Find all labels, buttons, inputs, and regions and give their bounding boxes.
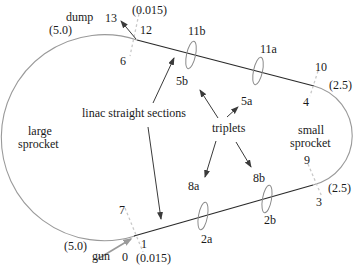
label-small-sprocket-line1: small <box>298 124 324 136</box>
label-large-sprocket-line2: sprocket <box>18 138 59 150</box>
label-large-sprocket-line1: large <box>28 125 52 137</box>
label-value-50-top: (5.0) <box>49 24 72 36</box>
top-straight-line <box>137 40 314 86</box>
label-triplets: triplets <box>212 122 245 134</box>
label-dump: dump <box>66 11 93 23</box>
ring-diagram: dump 13 (0.015) (5.0) 12 6 11b 5b 11a 5a… <box>0 0 357 272</box>
label-point-1: 1 <box>141 238 147 250</box>
triplet-ellipses <box>184 40 274 230</box>
triplets-arrow-8b <box>236 142 251 167</box>
label-triplet-2b: 2b <box>264 214 276 226</box>
label-point-3: 3 <box>316 196 322 208</box>
label-triplet-11b: 11b <box>188 25 206 37</box>
label-point-4: 4 <box>303 96 309 108</box>
label-point-0: 0 <box>122 251 128 263</box>
label-point-9: 9 <box>304 154 310 166</box>
label-point-13: 13 <box>105 12 117 24</box>
hatch-bottom-right <box>308 164 322 197</box>
label-point-12: 12 <box>140 24 152 36</box>
label-triplet-2a: 2a <box>201 233 212 245</box>
label-gun: gun <box>92 250 110 262</box>
label-point-10: 10 <box>315 61 327 73</box>
label-triplet-11a: 11a <box>260 43 277 55</box>
label-linac-straight-sections: linac straight sections <box>82 107 186 119</box>
label-point-6: 6 <box>120 55 126 67</box>
label-triplet-8a: 8a <box>188 180 199 192</box>
label-point-7: 7 <box>119 204 125 216</box>
label-value-25-top: (2.5) <box>329 79 352 91</box>
label-triplet-8b: 8b <box>253 172 265 184</box>
label-value-25-bottom: (2.5) <box>328 182 351 194</box>
label-triplet-5b: 5b <box>176 75 188 87</box>
straight-sections <box>134 40 314 236</box>
label-triplet-5a: 5a <box>241 95 252 107</box>
triplet-ellipse-8b-2b <box>260 184 274 213</box>
triplets-arrow-8a <box>205 141 216 177</box>
annotation-arrows <box>121 21 251 219</box>
label-value-50-bottom: (5.0) <box>64 240 87 252</box>
triplets-arrow-5a <box>227 107 238 117</box>
label-small-sprocket-line2: sprocket <box>290 137 331 149</box>
linac-arrow-top <box>153 58 174 103</box>
triplets-arrow-5b <box>200 90 218 118</box>
hatch-top-right <box>310 71 318 96</box>
label-value-0015-bottom: (0.015) <box>136 252 171 264</box>
bottom-straight-line <box>134 185 313 236</box>
linac-arrow-bottom <box>148 127 161 219</box>
label-value-0015-top: (0.015) <box>132 4 167 16</box>
